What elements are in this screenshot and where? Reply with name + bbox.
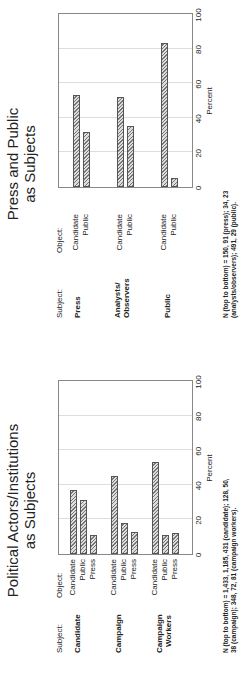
figure: Political Actors/Institutions as Subject…	[0, 0, 250, 693]
bar	[121, 523, 128, 554]
subject-label-line: Observers	[122, 278, 131, 318]
panel-title: Political Actors/Institutions as Subject…	[4, 338, 38, 683]
title-line-2: as Subjects	[21, 0, 38, 338]
bar	[73, 95, 80, 187]
subject-label: Campaign	[114, 614, 123, 653]
plot-area	[58, 13, 193, 188]
object-label: Public	[78, 559, 88, 609]
gridline	[59, 415, 192, 416]
subject-header: Subject:	[55, 624, 64, 653]
bar	[152, 462, 159, 554]
object-label: Public	[119, 559, 129, 609]
object-labels: Candidate Public Press	[109, 559, 139, 609]
sample-size-note: N (top to bottom) = 1,433, 1,185, 431 (c…	[222, 478, 237, 653]
subject-label: Public	[163, 294, 172, 318]
object-label: Candidate	[71, 214, 81, 264]
bar	[83, 132, 90, 187]
x-tick-label: 80	[194, 405, 203, 429]
x-tick-label: 80	[194, 38, 203, 62]
bar	[111, 476, 118, 554]
subject-label: Candidate	[73, 614, 82, 653]
x-tick-label: 20	[194, 141, 203, 165]
object-labels: Candidate Public Press	[68, 559, 98, 609]
subject-label-line: Campaign	[155, 614, 164, 653]
x-tick-label: 20	[194, 508, 203, 532]
bar	[117, 97, 124, 187]
title-line-1: Political Actors/Institutions	[4, 338, 21, 683]
plot-area	[58, 380, 193, 555]
object-label: Candidate	[68, 559, 78, 609]
subject-label-line: Workers	[164, 614, 173, 653]
gridline	[59, 484, 192, 485]
object-label: Public	[160, 559, 170, 609]
object-labels: Candidate Public	[115, 214, 135, 264]
object-label: Press	[88, 559, 98, 609]
bar	[90, 535, 97, 554]
x-tick-label: 100	[194, 3, 203, 27]
object-labels: Candidate Public	[159, 214, 179, 264]
object-labels: Candidate Public Press	[150, 559, 180, 609]
subject-label: Campaign Workers	[155, 614, 173, 653]
bar	[161, 43, 168, 187]
bar	[127, 126, 134, 187]
bar	[131, 532, 138, 554]
subject-label: Analysts/ Observers	[113, 278, 131, 318]
object-header: Object:	[55, 228, 64, 253]
x-tick-label: 40	[194, 474, 203, 498]
subject-label-line: Analysts/	[113, 278, 122, 318]
object-label: Public	[125, 214, 135, 264]
x-axis-label: Percent	[205, 71, 214, 131]
object-label: Candidate	[109, 559, 119, 609]
bar	[172, 533, 179, 554]
subject-label: Press	[73, 296, 82, 318]
x-tick-label: 0	[194, 543, 203, 567]
panel-title: Press and Public as Subjects	[4, 0, 38, 338]
gridline	[59, 449, 192, 450]
x-tick-label: 60	[194, 439, 203, 463]
object-label: Press	[170, 559, 180, 609]
title-line-2: as Subjects	[21, 338, 38, 683]
bar	[80, 500, 87, 554]
object-labels: Candidate Public	[71, 214, 91, 264]
bar	[70, 490, 77, 554]
gridline	[59, 518, 192, 519]
gridline	[59, 82, 192, 83]
x-tick-label: 0	[194, 176, 203, 200]
panel-political-actors: Political Actors/Institutions as Subject…	[0, 348, 250, 693]
object-label: Candidate	[115, 214, 125, 264]
sample-size-note: N (top to bottom) = 150, 91 (press); 34,…	[222, 143, 237, 318]
object-label: Candidate	[159, 214, 169, 264]
object-label: Public	[169, 214, 179, 264]
bar	[162, 535, 169, 554]
gridline	[59, 48, 192, 49]
subject-header: Subject:	[55, 289, 64, 318]
x-tick-label: 100	[194, 370, 203, 394]
x-tick-label: 60	[194, 72, 203, 96]
object-label: Press	[129, 559, 139, 609]
object-label: Candidate	[150, 559, 160, 609]
object-label: Public	[81, 214, 91, 264]
title-line-1: Press and Public	[4, 0, 21, 338]
object-header: Object:	[55, 573, 64, 598]
bar	[171, 178, 178, 187]
x-axis-label: Percent	[205, 438, 214, 498]
panel-press-public: Press and Public as Subjects Subject: Ob…	[0, 0, 250, 348]
x-tick-label: 40	[194, 107, 203, 131]
